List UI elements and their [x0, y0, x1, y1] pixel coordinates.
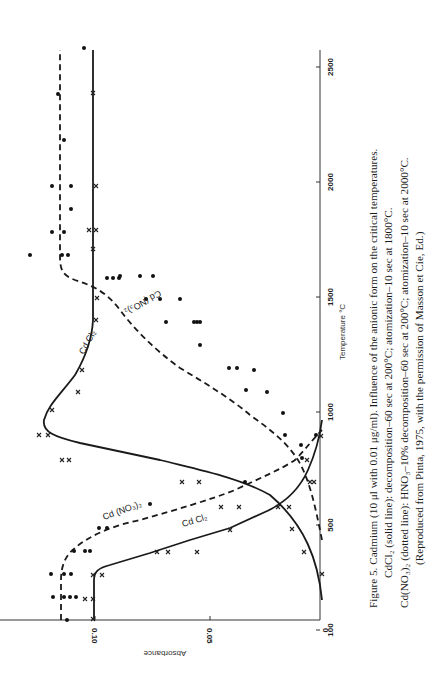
y-tick-0-10: 0.10: [90, 628, 99, 644]
cdcl2-upper-label: Cd Cl₂: [77, 328, 98, 356]
y-tick-0-05: 0.05: [205, 628, 214, 644]
y-axis-title: Absorbance: [143, 649, 186, 658]
x-tick-2500: 2500: [326, 58, 335, 76]
cdno3-markers: [28, 46, 318, 622]
caption-line-4: (Reproduced from Pinta, 1975, with the p…: [413, 231, 426, 565]
caption-line-3: Cd(NO₃)₂ (dotted line): HNO₃–10% decompo…: [398, 157, 411, 608]
absorbance-axis: 0 0.05 0.10 Absorbance: [0, 616, 330, 658]
temperature-axis: 100 500 1000 1500 2000 2500 Temperature …: [316, 50, 347, 637]
figure-caption: Figure 5. Cadmium (10 μl with 0.01 μg/ml…: [367, 148, 426, 608]
caption-line-2: CdCl₂ (solid line): decomposition–60 sec…: [382, 207, 395, 578]
x-tick-1500: 1500: [326, 288, 335, 306]
x-tick-500: 500: [326, 518, 335, 532]
cdcl2-atomization-curve: [44, 50, 322, 600]
cdno3-upper-label: Cd (NO₃)₂: [122, 288, 163, 317]
cdcl2-lower-label: Cd Cl₂: [181, 512, 209, 529]
x-axis-title: Temperature °C: [338, 304, 347, 360]
rotated-figure: 100 500 1000 1500 2000 2500 Temperature …: [0, 0, 441, 681]
cdcl2-markers: [37, 91, 324, 621]
caption-line-1: Figure 5. Cadmium (10 μl with 0.01 μg/ml…: [367, 148, 380, 608]
x-tick-1000: 1000: [326, 403, 335, 421]
x-tick-2000: 2000: [326, 173, 335, 191]
y-tick-0: 0: [321, 628, 330, 633]
cdno3-lower-label: Cd (NO₃)₂: [101, 498, 143, 521]
